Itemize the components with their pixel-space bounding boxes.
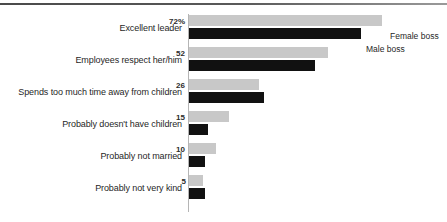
- bar-chart: Excellent leader 72% 64% Female boss Mal…: [0, 0, 447, 222]
- bar-group: Spends too much time away from children …: [0, 78, 447, 105]
- bar-value-male: 7: [182, 125, 186, 134]
- bar-value-male: 6: [182, 189, 186, 198]
- bar-value-male: 47: [176, 61, 185, 70]
- bar-fill-female: [189, 15, 382, 26]
- bar-value-male: 64%: [169, 29, 185, 38]
- bar-group: Probably not very kind 5 6: [0, 174, 447, 201]
- bar-fill-male: [189, 124, 208, 135]
- bar-value-male: 6: [182, 157, 186, 166]
- bar-fill-male: [189, 156, 205, 167]
- bar-value-male: 28: [176, 93, 185, 102]
- bar-group: Employees respect her/him 52 47: [0, 46, 447, 73]
- bar-value-female: 52: [176, 48, 185, 57]
- category-label: Spends too much time away from children: [18, 86, 182, 97]
- category-label: Employees respect her/him: [75, 54, 182, 65]
- bar-group: Excellent leader 72% 64% Female boss Mal…: [0, 14, 447, 41]
- bar-group: Probably doesn't have children 15 7: [0, 110, 447, 137]
- header-divider: [0, 3, 447, 5]
- bar-fill-male: [189, 60, 315, 71]
- bar-value-female: 15: [176, 112, 185, 121]
- bar-fill-female: [189, 111, 229, 122]
- bar-fill-male: [189, 28, 361, 39]
- bar-value-female: 5: [182, 176, 186, 185]
- bar-fill-female: [189, 79, 259, 90]
- bar-value-female: 10: [176, 144, 185, 153]
- bar-value-female: 72%: [169, 16, 185, 25]
- bar-fill-female: [189, 47, 328, 58]
- plot-area: Excellent leader 72% 64% Female boss Mal…: [0, 14, 447, 214]
- category-label: Probably not married: [100, 150, 182, 161]
- category-label: Probably doesn't have children: [62, 118, 182, 129]
- bar-fill-male: [189, 92, 264, 103]
- bar-group: Probably not married 10 6: [0, 142, 447, 169]
- category-label: Probably not very kind: [95, 182, 182, 193]
- bar-value-female: 26: [176, 80, 185, 89]
- bar-fill-male: [189, 188, 205, 199]
- legend-item-female[interactable]: Female boss: [390, 31, 439, 41]
- bar-fill-female: [189, 143, 216, 154]
- bar-fill-female: [189, 175, 203, 186]
